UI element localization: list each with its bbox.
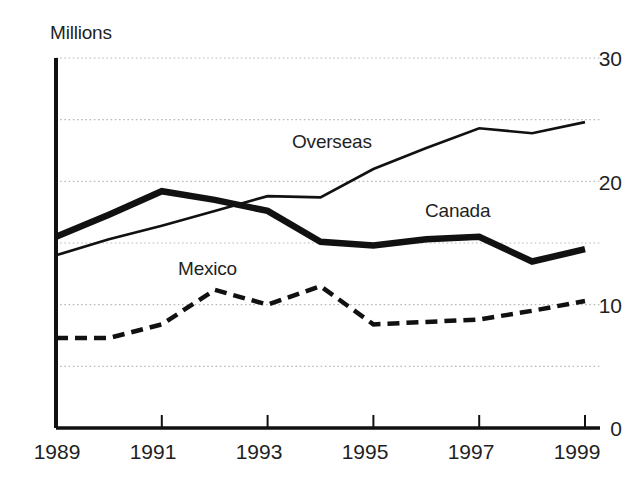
x-axis-ticks [162,415,585,427]
series-line-mexico [56,286,585,338]
series-line-overseas [56,122,585,255]
line-chart: Millions 30 20 10 0 1989 1991 1993 1995 … [0,0,622,494]
plot-area [0,0,622,494]
gridlines [56,58,600,366]
series-line-canada [56,191,585,261]
data-series [56,122,585,338]
